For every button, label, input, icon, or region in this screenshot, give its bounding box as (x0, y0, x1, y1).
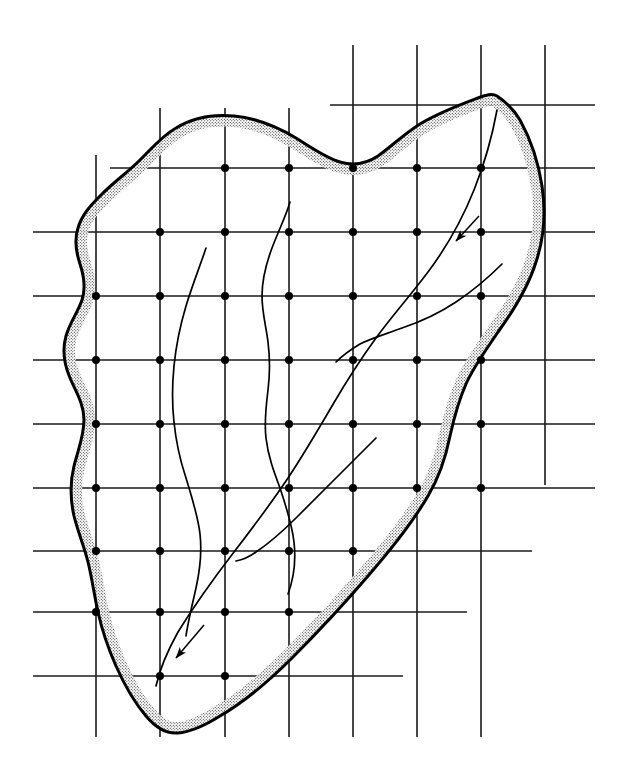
grid-node-dot (285, 547, 293, 555)
grid-node-dot (221, 164, 229, 172)
grid-node-dot (156, 608, 164, 616)
grid-node-dot (221, 608, 229, 616)
grid-node-dot (221, 547, 229, 555)
grid-node-dot (221, 484, 229, 492)
grid-node-dot (349, 292, 357, 300)
grid-node-dot (413, 484, 421, 492)
grid-node-dot (285, 608, 293, 616)
grid-node-dot (285, 420, 293, 428)
grid-node-dot (285, 164, 293, 172)
grid-node-dot (221, 292, 229, 300)
grid-node-dot (477, 164, 485, 172)
grid-node-dot (221, 672, 229, 680)
grid-node-dot (477, 420, 485, 428)
grid-node-dot (413, 356, 421, 364)
grid-node-dot (413, 292, 421, 300)
grid-node-dot (413, 228, 421, 236)
grid-node-dot (285, 356, 293, 364)
grid-node-dot (92, 608, 100, 616)
grid-node-dot (156, 228, 164, 236)
grid-node-dot (477, 356, 485, 364)
grid-node-dot (156, 356, 164, 364)
grid-node-dot (477, 484, 485, 492)
grid-node-dot (156, 292, 164, 300)
grid-node-dot (285, 484, 293, 492)
figure-root (0, 0, 625, 771)
grid-node-dot (156, 547, 164, 555)
grid-node-dot (413, 420, 421, 428)
grid-node-dot (349, 356, 357, 364)
grid-node-dot (413, 164, 421, 172)
watershed-grid-figure (0, 0, 625, 771)
grid-node-dot (349, 228, 357, 236)
grid-node-dot (156, 484, 164, 492)
grid-node-dot (285, 292, 293, 300)
grid-node-dot (92, 484, 100, 492)
grid-node-dot (156, 672, 164, 680)
grid-node-dot (221, 228, 229, 236)
grid-node-dot (92, 292, 100, 300)
grid-node-dot (477, 228, 485, 236)
grid-node-dot (92, 547, 100, 555)
grid-node-dot (156, 420, 164, 428)
grid-node-dot (221, 420, 229, 428)
grid-node-dot (477, 292, 485, 300)
grid-node-dot (349, 547, 357, 555)
grid-node-dot (92, 420, 100, 428)
grid-node-dot (349, 164, 357, 172)
grid-node-dot (92, 356, 100, 364)
grid-node-dot (285, 228, 293, 236)
grid-node-dot (349, 484, 357, 492)
grid-node-dot (349, 420, 357, 428)
grid-node-dot (221, 356, 229, 364)
